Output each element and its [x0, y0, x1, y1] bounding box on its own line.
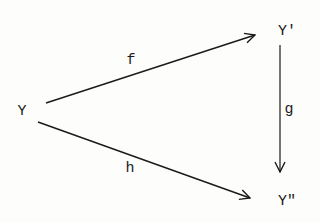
- arrow-f: [46, 35, 255, 103]
- diagram-canvas: [0, 0, 320, 222]
- arrow-label-h: h: [125, 161, 134, 177]
- arrow-h: [38, 122, 250, 198]
- arrow-label-g: g: [284, 102, 293, 118]
- node-y: Y: [17, 104, 26, 120]
- node-y-prime: Y': [278, 24, 296, 40]
- arrow-label-f: f: [126, 53, 135, 69]
- node-y-double-prime: Y": [278, 194, 296, 210]
